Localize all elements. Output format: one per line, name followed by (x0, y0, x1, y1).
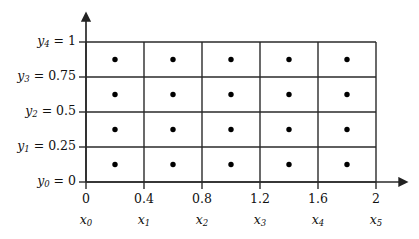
data-point (228, 57, 233, 62)
grid-lines (86, 42, 376, 182)
y-axis-label-0: y0 = 0 (37, 175, 76, 189)
y-axis-label-3: y3 = 0.75 (17, 70, 76, 84)
y-axis-label-1: y1 = 0.25 (17, 140, 76, 154)
x-axis-symbol-0: x0 (66, 214, 106, 228)
data-point (286, 162, 291, 167)
data-point (170, 162, 175, 167)
data-point (228, 162, 233, 167)
x-axis-number-3: 1.2 (240, 193, 280, 206)
data-point (228, 92, 233, 97)
y-axis-label-2: y2 = 0.5 (25, 105, 76, 119)
grid-point-figure: y0 = 0y1 = 0.25y2 = 0.5y3 = 0.75y4 = 1 0… (0, 0, 419, 239)
data-point (344, 162, 349, 167)
data-point (286, 127, 291, 132)
data-point (112, 127, 117, 132)
x-axis-number-0: 0 (66, 193, 106, 206)
data-point (228, 127, 233, 132)
x-axis-number-1: 0.4 (124, 193, 164, 206)
x-axis-number-5: 2 (356, 193, 396, 206)
data-point (112, 162, 117, 167)
data-point (170, 127, 175, 132)
x-axis-symbol-1: x1 (124, 214, 164, 228)
x-axis-symbol-5: x5 (356, 214, 396, 228)
data-point (112, 57, 117, 62)
y-axis-label-4: y4 = 1 (37, 35, 76, 49)
data-point (344, 127, 349, 132)
data-point (112, 92, 117, 97)
axis-tick-marks (79, 42, 376, 189)
data-point (170, 57, 175, 62)
data-point (286, 92, 291, 97)
data-point (286, 57, 291, 62)
x-axis-symbol-2: x2 (182, 214, 222, 228)
x-axis-number-2: 0.8 (182, 193, 222, 206)
data-point (344, 92, 349, 97)
data-point (344, 57, 349, 62)
data-point (170, 92, 175, 97)
x-axis-symbol-3: x3 (240, 214, 280, 228)
x-axis-number-4: 1.6 (298, 193, 338, 206)
x-axis-symbol-4: x4 (298, 214, 338, 228)
